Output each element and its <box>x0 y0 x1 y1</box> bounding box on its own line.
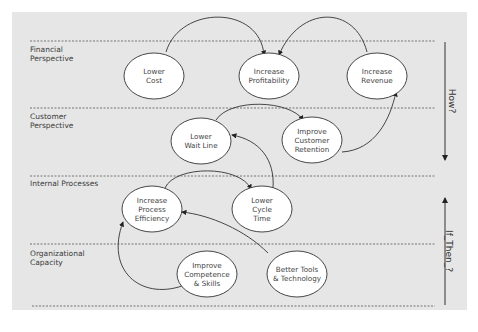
node-improve-customer-retention: Improve Customer Retention <box>282 117 342 163</box>
node-better-tools-technology: Better Tools & Technology <box>267 251 327 297</box>
node-increase-profitability: Increase Profitability <box>239 53 299 99</box>
perspective-customer: Customer Perspective <box>30 112 73 130</box>
perspective-internal: Internal Processes <box>30 179 98 188</box>
perspective-financial: Financial Perspective <box>30 45 73 63</box>
node-increase-process-efficiency: Increase Process Efficiency <box>122 186 182 232</box>
node-lower-cost: Lower Cost <box>124 53 184 99</box>
node-increase-revenue: Increase Revenue <box>347 53 407 99</box>
node-lower-cycle-time: Lower Cycle Time <box>232 186 292 232</box>
perspective-organizational: Organizational Capacity <box>30 249 85 267</box>
edge-revenue-to-profitability <box>279 17 367 55</box>
node-lower-wait-line: Lower Wait Line <box>171 118 231 164</box>
edge-cycle-time-to-wait-line <box>232 135 273 188</box>
edge-lower-cost-to-profitability <box>166 17 264 55</box>
node-improve-competence-skills: Improve Competence & Skills <box>177 251 237 297</box>
edge-retention-to-revenue <box>342 92 396 152</box>
how-label: How? <box>447 89 457 113</box>
if-then-label: If_Then_? <box>444 230 454 272</box>
